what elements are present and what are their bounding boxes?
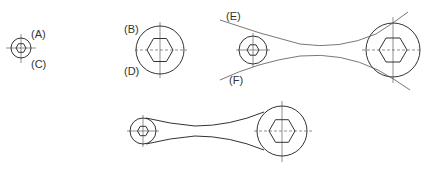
step-3-construction-arcs: (E) (F): [220, 10, 422, 90]
label-d: (D): [124, 65, 139, 77]
step-4-final-wrench: [127, 101, 312, 162]
wrench-construction-diagram: (A) (C) (B) (D) (E) (F): [0, 0, 424, 169]
handle-upper-edge: [146, 112, 264, 126]
lower-construction-arc: [220, 55, 410, 90]
label-f: (F): [229, 74, 243, 86]
label-a: (A): [31, 28, 46, 40]
upper-construction-arc: [220, 12, 408, 46]
label-c: (C): [31, 58, 46, 70]
step-1-small-boss: (A) (C): [6, 28, 46, 70]
label-e: (E): [226, 10, 241, 22]
handle-lower-edge: [146, 136, 264, 150]
label-b: (B): [124, 23, 139, 35]
step-2-large-boss: (B) (D): [124, 22, 187, 78]
